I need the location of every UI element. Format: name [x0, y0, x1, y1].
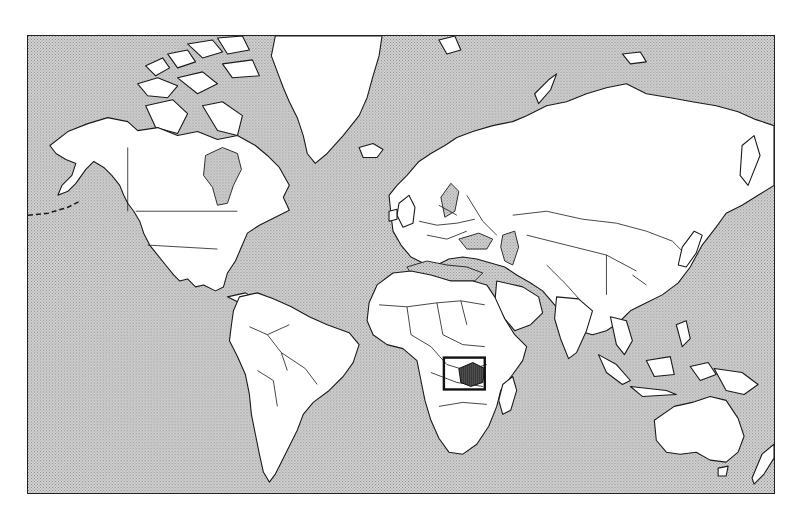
tasmania — [718, 466, 728, 476]
world-locator-map — [27, 35, 775, 494]
